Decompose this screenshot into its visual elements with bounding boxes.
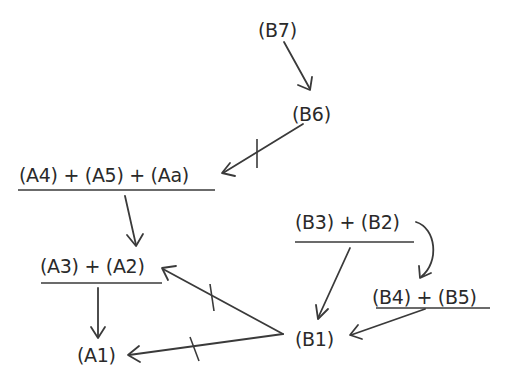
- edge-b7-to-b6: [284, 42, 312, 90]
- node-b4-b5: (B4) + (B5): [372, 286, 477, 308]
- edge-b1-to-a1: [128, 334, 283, 362]
- edge-b3-b2-to-b4-b5: [416, 222, 433, 278]
- edge-b3-b2-to-b1: [316, 248, 350, 319]
- node-a4-a5-aa: (A4) + (A5) + (Aa): [19, 164, 189, 186]
- node-a3-a2: (A3) + (A2): [40, 255, 145, 277]
- node-b1: (B1): [295, 328, 334, 350]
- edge-a3-a2-to-a1: [91, 288, 105, 338]
- implication-diagram: (B7) (B6) (A4) + (A5) + (Aa) (A3) + (A2)…: [0, 0, 509, 381]
- node-b7: (B7): [258, 19, 297, 41]
- node-a1: (A1): [77, 344, 116, 366]
- edge-b6-to-a4-a5-aa: [222, 124, 303, 176]
- node-b6: (B6): [292, 103, 331, 125]
- edge-a4-a5-aa-to-a3-a2: [125, 196, 143, 246]
- negation-tick-icon: [210, 284, 214, 311]
- edge-b1-to-a3-a2: [162, 266, 283, 334]
- edge-b4-b5-to-b1: [350, 309, 425, 339]
- node-b3-b2: (B3) + (B2): [295, 211, 400, 233]
- negation-tick-icon: [190, 337, 199, 361]
